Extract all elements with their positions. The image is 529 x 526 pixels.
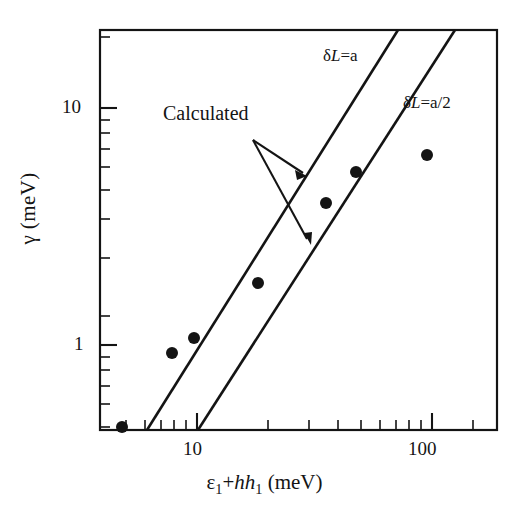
x-axis-epsilon-symbol: ε bbox=[206, 470, 215, 494]
delta-symbol: δ bbox=[403, 93, 411, 112]
y-axis-units: (meV) bbox=[16, 172, 40, 234]
x-axis-minor-ticks bbox=[126, 420, 473, 430]
equals-a-half-text: =a/2 bbox=[420, 93, 450, 112]
line-delta-L-equals-a bbox=[147, 30, 398, 430]
figure-canvas: γ (meV) ε1+hh1 (meV) 10 1 10 100 δL=a δL… bbox=[0, 0, 529, 526]
equals-a-text: =a bbox=[340, 46, 357, 65]
annotation-delta-L-equals-a: δL=a bbox=[323, 46, 358, 66]
data-point bbox=[350, 166, 362, 178]
x-tick-label-10: 10 bbox=[183, 438, 202, 460]
y-axis-gamma-symbol: γ bbox=[16, 235, 40, 245]
axes-frame bbox=[100, 30, 497, 430]
data-point bbox=[188, 332, 200, 344]
line-delta-L-equals-a-half bbox=[198, 30, 455, 430]
delta-symbol: δ bbox=[323, 46, 331, 65]
y-tick-label-10: 10 bbox=[62, 96, 81, 118]
data-point bbox=[116, 421, 128, 433]
y-tick-label-1: 1 bbox=[74, 333, 84, 355]
x-axis-plus-symbol: + bbox=[222, 470, 234, 494]
x-tick-label-100: 100 bbox=[408, 438, 437, 460]
data-point bbox=[421, 149, 433, 161]
annotation-delta-L-equals-a-half: δL=a/2 bbox=[403, 93, 451, 113]
x-axis-hh-symbol: hh bbox=[234, 470, 255, 494]
y-axis-major-ticks bbox=[100, 108, 117, 345]
data-point bbox=[166, 347, 178, 359]
data-points bbox=[116, 149, 433, 433]
data-point bbox=[252, 277, 264, 289]
x-axis-title: ε1+hh1 (meV) bbox=[0, 470, 529, 498]
annotation-arrows bbox=[253, 140, 312, 245]
x-axis-units: (meV) bbox=[262, 470, 322, 494]
annotation-calculated-label: Calculated bbox=[163, 102, 249, 125]
plot-area bbox=[0, 0, 529, 526]
data-point bbox=[320, 197, 332, 209]
y-axis-minor-ticks bbox=[100, 37, 110, 427]
y-axis-title: γ (meV) bbox=[16, 129, 41, 289]
